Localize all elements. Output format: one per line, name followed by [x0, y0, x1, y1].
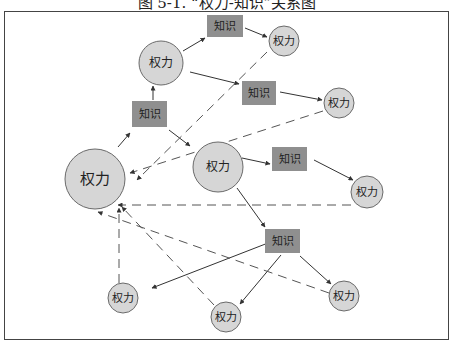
edge-k5-to-p8	[300, 256, 331, 284]
power-node-p1: 权力	[139, 41, 183, 85]
node-label: 权力	[149, 56, 173, 70]
edge-k5-to-p7	[240, 255, 281, 304]
node-label: 权力	[356, 186, 378, 199]
edge-k4-to-p5	[314, 160, 353, 180]
edge-p4-to-k4	[242, 158, 270, 164]
knowledge-node-k4: 知识	[272, 147, 307, 171]
node-label: 权力	[112, 292, 134, 305]
node-label: 权力	[80, 170, 110, 188]
edge-p1-to-k3	[190, 72, 239, 84]
node-label: 知识	[214, 19, 236, 33]
edge-k3-to-p3	[280, 92, 322, 100]
power-node-p6: 权力	[108, 283, 138, 313]
knowledge-node-k3: 知识	[242, 81, 276, 105]
nodes-layer: 权力权力权力权力权力权力权力权力权力知识知识知识知识知识	[65, 15, 383, 332]
power-node-p0: 权力	[65, 149, 125, 209]
power-node-p3: 权力	[324, 88, 354, 118]
power-knowledge-diagram: 权力权力权力权力权力权力权力权力权力知识知识知识知识知识	[0, 0, 454, 350]
node-label: 知识	[248, 86, 270, 100]
edge-k1-to-p2	[245, 28, 267, 37]
power-node-p7: 权力	[211, 302, 241, 332]
node-label: 权力	[206, 160, 230, 174]
edge-p4-to-k5	[237, 188, 265, 227]
node-label: 权力	[215, 311, 237, 324]
node-label: 权力	[333, 290, 355, 303]
node-label: 权力	[273, 35, 295, 48]
knowledge-node-k2: 知识	[132, 101, 167, 127]
node-label: 权力	[328, 97, 350, 110]
power-node-p2: 权力	[269, 26, 299, 56]
power-node-p8: 权力	[329, 281, 359, 311]
knowledge-node-k5: 知识	[265, 229, 300, 253]
node-label: 知识	[272, 234, 294, 248]
power-node-p4: 权力	[193, 142, 243, 192]
power-node-p5: 权力	[351, 176, 383, 208]
node-label: 知识	[139, 107, 161, 121]
node-label: 知识	[279, 152, 301, 166]
edge-p1-to-k1	[183, 38, 205, 51]
edge-p0-to-k2	[118, 133, 130, 147]
knowledge-node-k1: 知识	[207, 15, 243, 37]
